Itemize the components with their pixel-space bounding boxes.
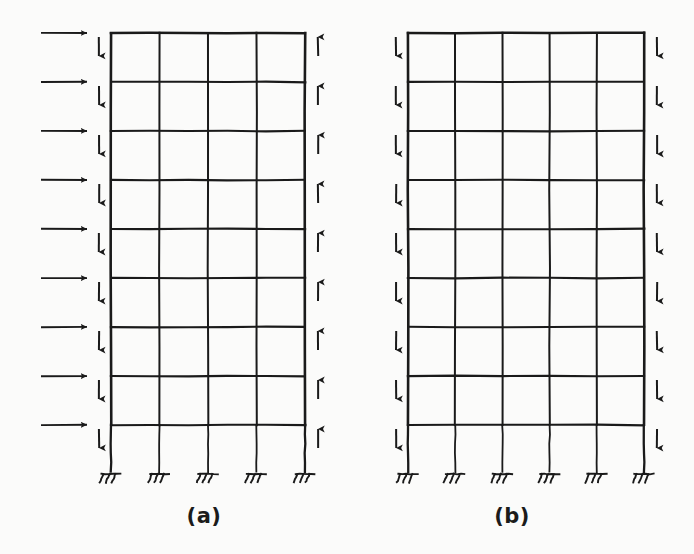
fixed-support-icon [245, 474, 266, 482]
frame-diagram-svg: (a) (b) [0, 0, 694, 554]
support-hatch-0 [492, 474, 496, 482]
support-hatch-2 [409, 474, 412, 483]
fixed-support-icon [100, 474, 121, 483]
support-hatch-1 [639, 474, 643, 482]
frame-b-caption: (b) [494, 504, 530, 528]
fixed-support-icon [397, 474, 418, 483]
support-hatch-2 [456, 474, 460, 483]
support-hatch-1 [203, 474, 207, 482]
frame-b [396, 33, 657, 483]
support-hatch-0 [397, 474, 400, 482]
support-hatch-2 [598, 474, 601, 482]
beam-level-4 [408, 278, 644, 279]
beam-level-2 [408, 376, 644, 377]
beam-level-6 [408, 180, 644, 181]
column-3 [208, 33, 209, 425]
support-hatch-1 [403, 474, 406, 482]
fixed-support-icon [197, 474, 218, 483]
fixed-support-icon [633, 474, 653, 483]
support-hatch-2 [209, 474, 213, 482]
ground-column-2 [455, 425, 456, 472]
ground-column-1 [111, 425, 112, 472]
ground-column-6 [644, 425, 645, 472]
support-group [100, 474, 315, 483]
ground-column-3 [502, 425, 503, 472]
support-hatch-0 [633, 474, 636, 483]
support-hatch-0 [245, 474, 249, 482]
ground-column-4 [549, 425, 550, 472]
figure-container: (a) (b) [0, 0, 694, 554]
fixed-support-icon [585, 474, 606, 483]
column-group [408, 33, 645, 473]
support-hatch-1 [544, 474, 548, 482]
beam-level-1 [408, 425, 644, 426]
column-1 [408, 33, 409, 425]
support-hatch-0 [585, 474, 589, 483]
column-4 [549, 33, 550, 424]
support-hatch-0 [294, 474, 297, 482]
frame-a [41, 33, 318, 483]
support-hatch-0 [148, 474, 152, 482]
ground-column-1 [408, 425, 409, 472]
support-hatch-2 [645, 474, 649, 482]
support-hatch-1 [300, 474, 303, 482]
support-hatch-0 [539, 474, 542, 482]
column-5 [305, 33, 306, 425]
fixed-support-icon [539, 474, 560, 483]
column-2 [455, 33, 456, 425]
support-base-line [540, 474, 559, 475]
beam-group [408, 33, 645, 426]
support-hatch-0 [100, 474, 104, 482]
fixed-support-icon [294, 474, 314, 482]
support-hatch-1 [592, 474, 595, 482]
column-6 [644, 33, 645, 425]
support-hatch-0 [444, 474, 448, 482]
support-hatch-2 [160, 474, 164, 482]
support-hatch-2 [551, 474, 554, 482]
support-hatch-2 [112, 474, 116, 483]
support-hatch-1 [251, 474, 255, 482]
fixed-support-icon [444, 474, 465, 483]
support-hatch-2 [258, 474, 262, 482]
support-hatch-1 [450, 474, 454, 483]
frame-a-caption: (a) [187, 504, 222, 528]
ground-column-5 [305, 425, 306, 472]
column-group [111, 33, 306, 472]
column-1 [111, 33, 112, 425]
beam-level-9 [408, 33, 644, 34]
support-group [397, 474, 654, 483]
fixed-support-icon [492, 474, 513, 483]
lateral-load-arrows [41, 33, 87, 425]
beam-level-7 [408, 131, 644, 132]
support-hatch-1 [106, 474, 110, 483]
beam-level-5 [408, 229, 644, 230]
support-hatch-1 [154, 474, 158, 482]
fixed-support-icon [148, 474, 169, 482]
beam-level-3 [408, 327, 644, 328]
